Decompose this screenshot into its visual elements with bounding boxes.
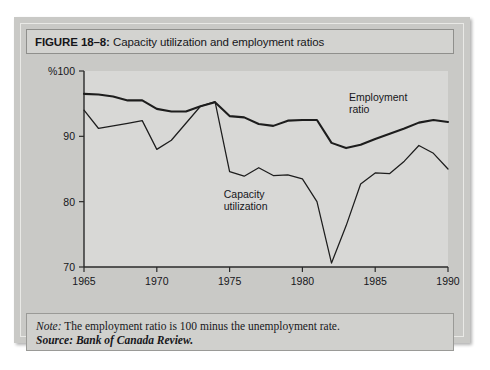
line-chart: 708090100 196519701975198019851990 % Emp…	[26, 61, 454, 311]
note-text: The employment ratio is 100 minus the un…	[62, 320, 340, 332]
figure-title-text: Capacity utilization and employment rati…	[110, 36, 324, 48]
figure-title-bar: FIGURE 18–8: Capacity utilization and em…	[26, 29, 454, 54]
source-line: Source: Bank of Canada Review.	[36, 333, 453, 347]
y-tick-labels: 708090100	[57, 65, 75, 273]
x-tick-label: 1965	[72, 275, 96, 287]
figure-title: FIGURE 18–8: Capacity utilization and em…	[35, 36, 324, 48]
x-tick-label: 1975	[218, 275, 242, 287]
x-tick-label: 1990	[436, 275, 460, 287]
x-tick-label: 1980	[291, 275, 315, 287]
x-tick-label: 1970	[145, 275, 169, 287]
note-line: Note: The employment ratio is 100 minus …	[36, 319, 453, 333]
y-tick-label: 70	[63, 261, 75, 273]
x-ticks	[84, 267, 448, 272]
series-annotations: EmploymentratioCapacityutilization	[224, 91, 408, 212]
note-box: Note: The employment ratio is 100 minus …	[26, 313, 454, 351]
employment-ratio-label: Employment	[349, 91, 407, 103]
employment-ratio-label: ratio	[349, 103, 370, 115]
note-keyword: Note:	[36, 320, 62, 332]
figure-screenshot: FIGURE 18–8: Capacity utilization and em…	[0, 0, 490, 370]
figure-number: FIGURE 18–8:	[35, 36, 110, 48]
y-tick-label: 80	[63, 196, 75, 208]
x-tick-labels: 196519701975198019851990	[72, 275, 460, 287]
figure-panel: FIGURE 18–8: Capacity utilization and em…	[14, 17, 470, 343]
y-tick-label: 90	[63, 130, 75, 142]
x-tick-label: 1985	[364, 275, 388, 287]
y-axis-unit-label: %	[48, 65, 57, 77]
capacity-utilization-label: utilization	[224, 200, 268, 212]
y-tick-label: 100	[57, 65, 75, 77]
capacity-utilization-label: Capacity	[224, 188, 266, 200]
y-ticks	[79, 71, 84, 267]
chart-area: 708090100 196519701975198019851990 % Emp…	[26, 61, 454, 311]
